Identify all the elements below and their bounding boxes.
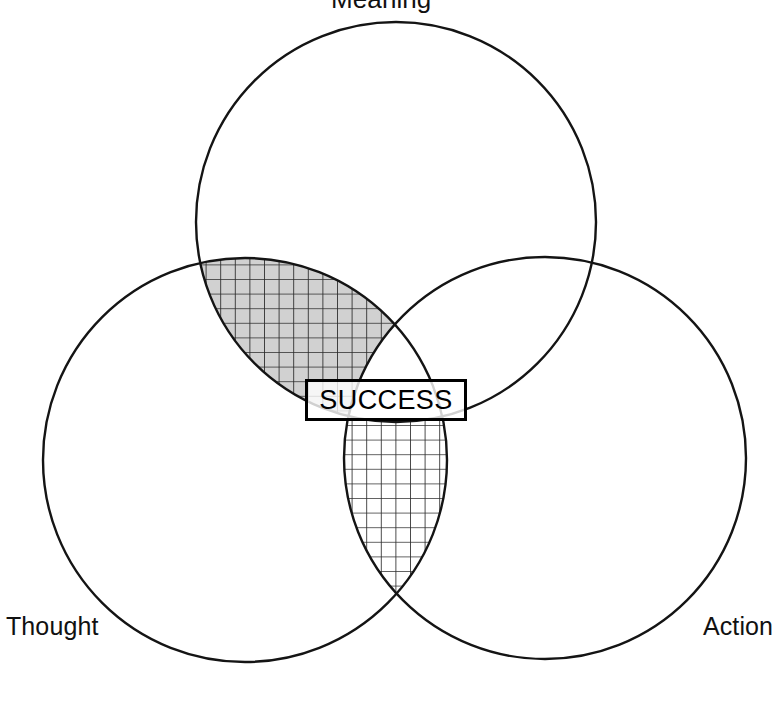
success-callout-label: SUCCESS (319, 387, 452, 414)
set-label-action: Action (703, 614, 773, 639)
venn-diagram-page: Meaning Thought Action SUCCESS (0, 0, 776, 709)
set-label-thought: Thought (6, 614, 98, 639)
venn-diagram-canvas (0, 0, 776, 709)
success-callout-box: SUCCESS (305, 379, 467, 421)
set-label-meaning: Meaning (331, 0, 431, 12)
